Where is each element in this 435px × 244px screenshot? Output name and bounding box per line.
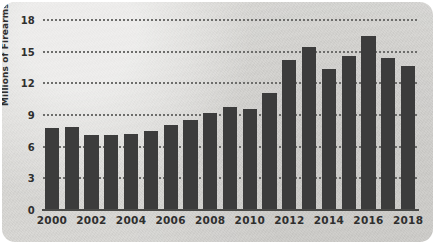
- x-tick-2000: 2000: [37, 214, 67, 226]
- x-tick-2012: 2012: [274, 214, 304, 226]
- y-tick-3: 3: [28, 173, 35, 184]
- x-axis-line: [42, 209, 419, 211]
- bar-2016: [361, 36, 375, 210]
- y-axis-title: Millions of Firearms Sold: [2, 2, 10, 106]
- bar-2018: [401, 66, 415, 210]
- x-tick-2008: 2008: [195, 214, 225, 226]
- x-tick-2004: 2004: [116, 214, 146, 226]
- x-tick-2010: 2010: [235, 214, 265, 226]
- bar-2017: [381, 58, 395, 210]
- y-tick-15: 15: [21, 46, 35, 57]
- x-tick-2014: 2014: [314, 214, 344, 226]
- y-tick-0: 0: [28, 205, 35, 216]
- bar-2012: [282, 60, 296, 210]
- bar-2003: [104, 135, 118, 210]
- y-tick-6: 6: [28, 141, 35, 152]
- bar-2014: [322, 69, 336, 210]
- y-tick-9: 9: [28, 110, 35, 121]
- x-tick-2018: 2018: [393, 214, 423, 226]
- bar-2004: [124, 134, 138, 210]
- bar-2013: [302, 47, 316, 210]
- bar-2009: [223, 107, 237, 210]
- bar-2002: [84, 135, 98, 210]
- bar-series: [42, 20, 418, 210]
- y-tick-12: 12: [21, 78, 35, 89]
- bar-2000: [45, 128, 59, 210]
- y-tick-18: 18: [21, 15, 35, 26]
- bar-2007: [183, 120, 197, 210]
- bar-2006: [164, 125, 178, 211]
- bar-2005: [144, 131, 158, 210]
- bar-2001: [65, 127, 79, 210]
- chart-card: Millions of Firearms Sold 0369121518 200…: [2, 2, 433, 242]
- bar-2015: [342, 56, 356, 210]
- bar-2010: [243, 109, 257, 210]
- x-tick-2002: 2002: [76, 214, 106, 226]
- bar-2008: [203, 113, 217, 210]
- bar-2011: [262, 93, 276, 210]
- x-tick-2016: 2016: [353, 214, 383, 226]
- plot-area: 0369121518: [42, 20, 418, 210]
- x-tick-2006: 2006: [155, 214, 185, 226]
